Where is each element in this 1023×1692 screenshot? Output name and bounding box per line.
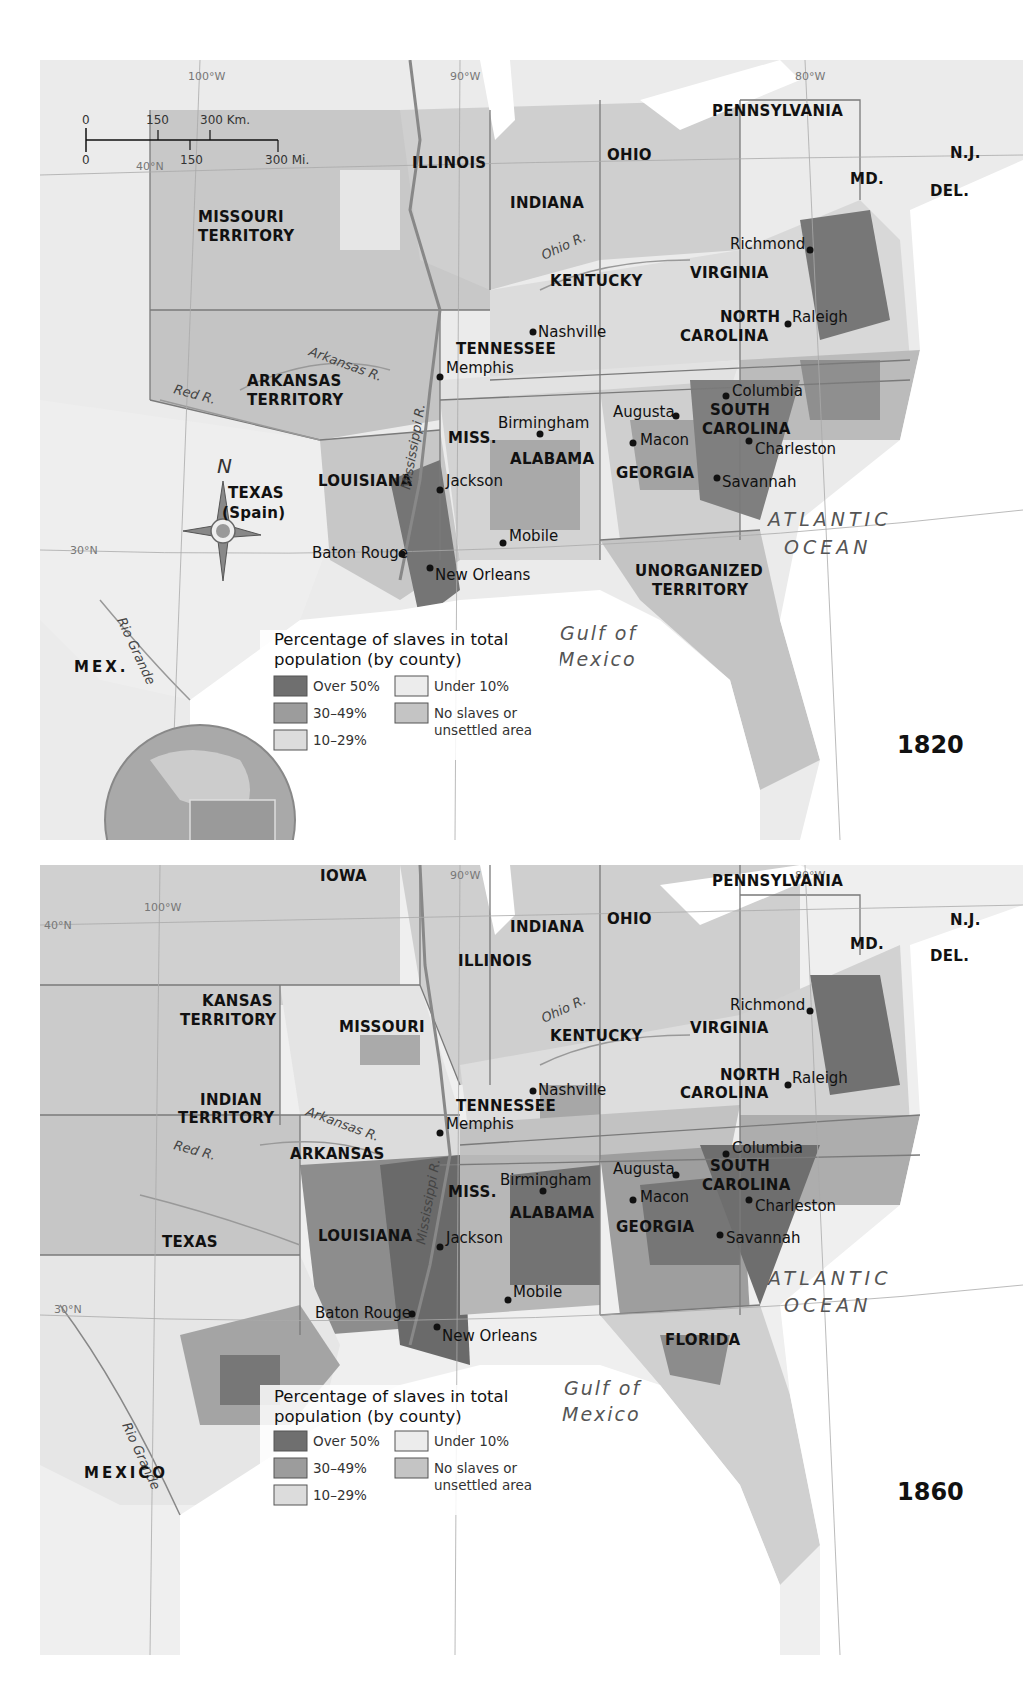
city-jackson: Jackson	[445, 1229, 503, 1247]
legend-label-over50: Over 50%	[313, 678, 380, 694]
city-augusta: Augusta	[613, 1160, 675, 1178]
label-mexico: MEX.	[74, 658, 128, 676]
legend-swatch-30-49	[274, 703, 307, 723]
city-columbia: Columbia	[732, 382, 803, 400]
label-gulf-1: Gulf of	[560, 622, 638, 644]
city-charleston: Charleston	[755, 440, 836, 458]
label-kansas-territory-2: TERRITORY	[180, 1011, 277, 1029]
grid-label-lon100: 100°W	[144, 901, 181, 914]
scale-km-150: 150	[146, 113, 169, 127]
legend-1860: Percentage of slaves in total population…	[260, 1385, 560, 1515]
legend-swatch-no-slaves	[395, 703, 428, 723]
city-macon: Macon	[640, 1188, 689, 1206]
label-illinois: ILLINOIS	[458, 952, 532, 970]
legend-title-2: population (by county)	[274, 650, 462, 669]
legend-swatch-30-49	[274, 1458, 307, 1478]
label-arkansas-territory-1: ARKANSAS	[247, 372, 342, 390]
city-nashville: Nashville	[538, 323, 606, 341]
label-pennsylvania: PENNSYLVANIA	[712, 872, 843, 890]
label-alabama: ALABAMA	[510, 1204, 595, 1222]
label-missouri-territory-1: MISSOURI	[198, 208, 284, 226]
label-florida: FLORIDA	[665, 1331, 740, 1349]
map-1820: 40°N 30°N 100°W 90°W 80°W 0 150 300 Km. …	[40, 60, 1023, 840]
label-indian-territory-1: INDIAN	[200, 1091, 262, 1109]
label-arkansas: ARKANSAS	[290, 1145, 385, 1163]
city-savannah: Savannah	[726, 1229, 801, 1247]
label-south-carolina-2: CAROLINA	[702, 1176, 791, 1194]
label-nj: N.J.	[950, 911, 981, 929]
city-baton-rouge: Baton Rouge	[315, 1304, 411, 1322]
label-atlantic-2: OCEAN	[784, 536, 871, 558]
label-texas-1: TEXAS	[228, 484, 284, 502]
legend-label-10-29: 10–29%	[313, 1487, 367, 1503]
grid-label-lat40: 40°N	[44, 919, 72, 932]
year-label-1860: 1860	[897, 1478, 964, 1506]
label-north-carolina-2: CAROLINA	[680, 1084, 769, 1102]
label-alabama: ALABAMA	[510, 450, 595, 468]
label-atlantic-1: ATLANTIC	[766, 508, 892, 530]
legend-swatch-over50	[274, 1431, 307, 1451]
legend-swatch-10-29	[274, 730, 307, 750]
grid-label-lat30: 30°N	[54, 1303, 82, 1316]
map-1820-canvas: 40°N 30°N 100°W 90°W 80°W 0 150 300 Km. …	[40, 60, 1023, 840]
legend-label-10-29: 10–29%	[313, 732, 367, 748]
legend-label-30-49: 30–49%	[313, 1460, 367, 1476]
city-augusta: Augusta	[613, 403, 675, 421]
label-ohio: OHIO	[607, 146, 652, 164]
scale-km-0: 0	[82, 113, 90, 127]
label-tennessee: TENNESSEE	[456, 340, 556, 358]
label-virginia: VIRGINIA	[690, 1019, 769, 1037]
city-memphis: Memphis	[446, 359, 514, 377]
legend-label-no-slaves-2: unsettled area	[434, 722, 532, 738]
label-del: DEL.	[930, 182, 969, 200]
city-raleigh: Raleigh	[792, 1069, 848, 1087]
legend-label-30-49: 30–49%	[313, 705, 367, 721]
label-kentucky: KENTUCKY	[550, 1027, 644, 1045]
city-jackson: Jackson	[445, 472, 503, 490]
legend-1820: Percentage of slaves in total population…	[260, 630, 560, 760]
legend-title-1: Percentage of slaves in total	[274, 1387, 508, 1406]
grid-label-lat40: 40°N	[136, 160, 164, 173]
legend-swatch-over50	[274, 676, 307, 696]
grid-label-lon90: 90°W	[450, 70, 480, 83]
label-md: MD.	[850, 935, 884, 953]
city-columbia: Columbia	[732, 1139, 803, 1157]
legend-swatch-no-slaves	[395, 1458, 428, 1478]
city-mobile: Mobile	[509, 527, 558, 545]
city-mobile: Mobile	[513, 1283, 562, 1301]
city-new-orleans: New Orleans	[435, 566, 531, 584]
label-louisiana: LOUISIANA	[318, 1227, 412, 1245]
scale-mi-300: 300 Mi.	[265, 153, 309, 167]
city-richmond: Richmond	[730, 235, 805, 253]
legend-swatch-under10	[395, 1431, 428, 1451]
scale-mi-150: 150	[180, 153, 203, 167]
map-1860: 40°N 30°N 100°W 90°W 80°W PENNSYLVANIA N…	[40, 865, 1023, 1655]
legend-label-no-slaves-1: No slaves or	[434, 705, 518, 721]
label-atlantic-1: ATLANTIC	[766, 1267, 892, 1289]
label-md: MD.	[850, 170, 884, 188]
label-indiana: INDIANA	[510, 194, 584, 212]
label-kentucky: KENTUCKY	[550, 272, 644, 290]
label-north-carolina-1: NORTH	[720, 1066, 780, 1084]
grid-label-lon80: 80°W	[795, 70, 825, 83]
label-texas: TEXAS	[162, 1233, 218, 1251]
city-birmingham: Birmingham	[498, 414, 589, 432]
label-mexico: MEXICO	[84, 1464, 168, 1482]
legend-label-no-slaves-1: No slaves or	[434, 1460, 518, 1476]
city-savannah: Savannah	[722, 473, 797, 491]
label-gulf-1: Gulf of	[564, 1377, 642, 1399]
legend-title-1: Percentage of slaves in total	[274, 630, 508, 649]
label-atlantic-2: OCEAN	[784, 1294, 871, 1316]
scale-km-300: 300 Km.	[200, 113, 250, 127]
legend-label-under10: Under 10%	[434, 1433, 509, 1449]
city-macon: Macon	[640, 431, 689, 449]
label-south-carolina-1: SOUTH	[710, 1157, 770, 1175]
label-north-carolina-1: NORTH	[720, 308, 780, 326]
label-gulf-2: Mexico	[558, 648, 637, 670]
city-memphis: Memphis	[446, 1115, 514, 1133]
compass-north-label: N	[217, 454, 232, 478]
label-south-carolina-2: CAROLINA	[702, 420, 791, 438]
label-kansas-territory-1: KANSAS	[202, 992, 273, 1010]
label-unorganized-territory-1: UNORGANIZED	[635, 562, 763, 580]
legend-swatch-under10	[395, 676, 428, 696]
